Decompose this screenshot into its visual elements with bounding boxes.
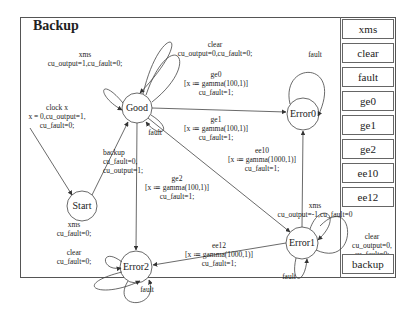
- ge1-label: ge1[x ≔ gamma(100,1)]cu_fault=1;: [180, 115, 252, 142]
- error2-fault-label: fault: [137, 285, 157, 294]
- event-button-xms[interactable]: xms: [342, 19, 394, 39]
- event-button-ee10[interactable]: ee10: [342, 163, 394, 183]
- state-good-label: Good: [122, 102, 152, 113]
- ge0-label: ge0[x ≔ gamma(100,1)]cu_fault=1;: [180, 70, 252, 97]
- event-button-ge2[interactable]: ge2: [342, 139, 394, 159]
- event-button-ge1[interactable]: ge1: [342, 115, 394, 135]
- state-error1-label: Error1: [285, 237, 319, 248]
- error2-clear-label: clearcu_fault=0;: [52, 248, 96, 266]
- ee10-label: ee10[x ≔ gamma(1000,1)]cu_fault=1;: [222, 146, 302, 173]
- ee12-label: ee12[x ≔ gamma(1000,1)]cu_fault=1;: [179, 241, 259, 268]
- clock-label: clock xx = 0,cu_output=1,cu_fault=0;: [22, 103, 92, 130]
- state-start-label: Start: [67, 200, 97, 211]
- good-clear-label: clearcu_output=0,cu_fault=0;: [165, 40, 265, 58]
- event-button-ee12[interactable]: ee12: [342, 187, 394, 207]
- event-button-clear[interactable]: clear: [342, 43, 394, 63]
- good-fault-label: fault: [145, 128, 165, 137]
- error2-xms-label: xmscu_fault=0;: [52, 220, 96, 238]
- error0-fault-label: fault: [305, 50, 325, 59]
- state-error2-label: Error2: [119, 261, 153, 272]
- event-button-ge0[interactable]: ge0: [342, 91, 394, 111]
- error1-fault-label: fault: [279, 272, 299, 281]
- state-error0-label: Error0: [286, 108, 320, 119]
- good-xms-label: xmscu_output=1,cu_fault=0;: [40, 50, 130, 68]
- backup-label: backupcu_fault=0,cu_output=1;: [103, 148, 143, 175]
- event-button-fault[interactable]: fault: [342, 67, 394, 87]
- backup-button[interactable]: backup: [342, 254, 394, 274]
- ge2-label: ge2[x ≔ gamma(100,1)]cu_fault=1;: [141, 174, 213, 201]
